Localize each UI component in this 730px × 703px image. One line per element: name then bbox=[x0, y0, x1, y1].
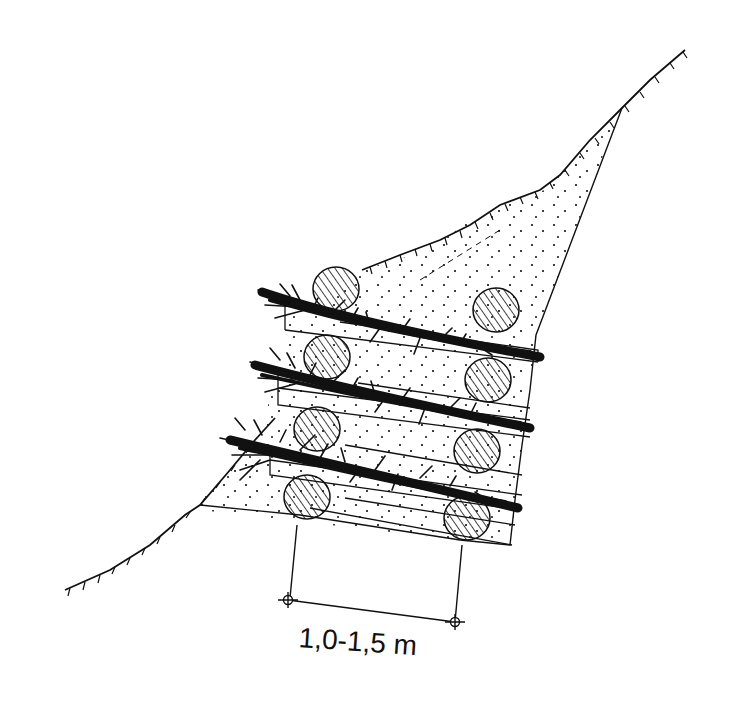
dimension-lines bbox=[278, 525, 465, 630]
log bbox=[313, 267, 359, 311]
log bbox=[465, 358, 511, 402]
brush-layer-diagram bbox=[0, 0, 730, 703]
log bbox=[294, 407, 340, 451]
log bbox=[473, 288, 519, 332]
log bbox=[284, 475, 330, 519]
log bbox=[454, 429, 500, 473]
